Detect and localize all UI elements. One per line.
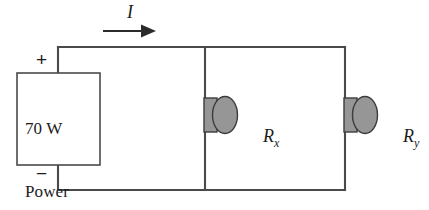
power-supply-rating: 70 W: [25, 119, 74, 140]
resistor-y-label: Ry: [385, 104, 419, 172]
resistor-y-subscript: y: [414, 136, 419, 150]
resistor-x-symbol: R: [263, 126, 274, 146]
resistor-y-ellipse: [353, 97, 378, 134]
resistor-x-subscript: x: [274, 136, 279, 150]
positive-terminal-label: +: [36, 48, 47, 71]
resistor-x-ellipse: [213, 97, 238, 134]
resistor-x-label: Rx: [245, 104, 279, 172]
circuit-diagram: + − 70 W Power Supply I Rx Ry: [0, 0, 429, 210]
power-supply-word-power: Power: [25, 182, 74, 203]
power-supply-label: 70 W Power Supply: [25, 78, 74, 210]
current-label: I: [127, 2, 133, 24]
current-arrow-head: [141, 25, 156, 38]
resistor-y-symbol: R: [403, 126, 414, 146]
